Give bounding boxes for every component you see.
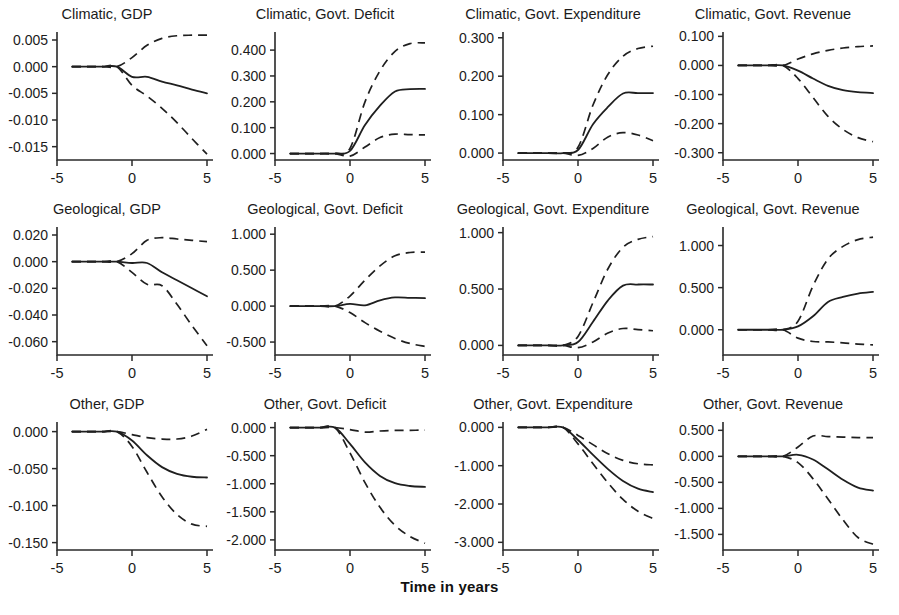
series-line-confidence-band [72, 238, 207, 263]
x-tick-label: 0 [794, 365, 802, 381]
y-tick-label: 0.000 [459, 145, 494, 161]
x-tick-label: 5 [869, 170, 877, 186]
y-tick-label: -2.000 [454, 496, 494, 512]
plot-area: 1.0000.5000.000-505 [441, 201, 665, 389]
x-tick-label: 5 [203, 170, 211, 186]
x-tick-label: 0 [128, 560, 136, 576]
x-tick-label: 0 [794, 170, 802, 186]
y-tick-label: -0.050 [8, 461, 48, 477]
x-tick-label: -5 [497, 170, 510, 186]
y-tick-label: 0.000 [13, 59, 48, 75]
plot-area: 0.000-0.500-1.000-1.500-2.000-505 [213, 396, 437, 584]
series-line-confidence-band [290, 306, 425, 347]
x-tick-label: -5 [717, 365, 730, 381]
series-line-confidence-band [738, 329, 873, 345]
plot-area: 0.0200.000-0.020-0.040-0.060-505 [0, 201, 219, 389]
y-tick-label: 0.500 [679, 280, 714, 296]
chart-panel: Other, Govt. Revenue0.5000.000-0.500-1.0… [661, 396, 885, 584]
x-tick-label: -5 [269, 560, 282, 576]
y-tick-label: -0.015 [8, 139, 48, 155]
x-tick-label: 0 [128, 170, 136, 186]
chart-panel: Other, Govt. Deficit0.000-0.500-1.000-1.… [213, 396, 437, 584]
series-line-confidence-band [72, 261, 207, 346]
series-line-median [290, 297, 425, 306]
y-tick-label: -1.500 [674, 526, 714, 542]
series-line-confidence-band [738, 435, 873, 457]
y-tick-label: 0.200 [459, 68, 494, 84]
chart-panel: Other, Govt. Expenditure0.000-1.000-2.00… [441, 396, 665, 584]
y-tick-label: 1.000 [459, 225, 494, 241]
plot-area: 1.0000.5000.000-505 [661, 201, 885, 389]
series-line-confidence-band [518, 427, 653, 465]
x-tick-label: -5 [51, 560, 64, 576]
x-tick-label: 0 [346, 170, 354, 186]
series-line-median [72, 262, 207, 297]
y-tick-label: 0.300 [459, 30, 494, 46]
y-tick-label: 0.500 [231, 262, 266, 278]
x-tick-label: -5 [717, 560, 730, 576]
x-tick-label: 0 [128, 365, 136, 381]
y-tick-label: 0.300 [231, 68, 266, 84]
x-tick-label: 5 [203, 560, 211, 576]
series-line-median [518, 92, 653, 153]
y-tick-label: -1.000 [226, 476, 266, 492]
impulse-response-figure-grid: Climatic, GDP0.0050.000-0.005-0.010-0.01… [0, 0, 899, 615]
y-tick-label: -1.500 [226, 504, 266, 520]
y-tick-label: 0.000 [459, 419, 494, 435]
figure-xaxis-caption: Time in years [0, 578, 899, 595]
series-line-confidence-band [518, 426, 653, 518]
chart-panel: Climatic, Govt. Expenditure0.3000.2000.1… [441, 6, 665, 194]
y-tick-label: 0.000 [679, 448, 714, 464]
x-tick-label: -5 [51, 365, 64, 381]
y-tick-label: 0.400 [231, 42, 266, 58]
series-line-confidence-band [738, 64, 873, 141]
x-tick-label: -5 [51, 170, 64, 186]
plot-area: 0.000-1.000-2.000-3.000-505 [441, 396, 665, 584]
y-tick-label: 0.005 [13, 32, 48, 48]
series-line-median [518, 284, 653, 346]
y-tick-label: -0.005 [8, 85, 48, 101]
y-tick-label: 0.000 [679, 322, 714, 338]
x-tick-label: 0 [346, 365, 354, 381]
series-line-median [518, 426, 653, 492]
y-tick-label: 0.000 [13, 254, 48, 270]
y-tick-label: -0.100 [674, 87, 714, 103]
y-tick-label: 1.000 [231, 226, 266, 242]
x-tick-label: 0 [574, 560, 582, 576]
plot-area: 0.3000.2000.1000.000-505 [441, 6, 665, 194]
x-tick-label: -5 [269, 170, 282, 186]
y-tick-label: -3.000 [454, 534, 494, 550]
y-tick-label: 0.500 [679, 422, 714, 438]
x-tick-label: 5 [869, 560, 877, 576]
y-tick-label: -0.200 [674, 116, 714, 132]
x-tick-label: 5 [649, 170, 657, 186]
chart-panel: Geological, GDP0.0200.000-0.020-0.040-0.… [0, 201, 219, 389]
series-line-confidence-band [72, 65, 207, 154]
y-tick-label: 0.000 [231, 420, 266, 436]
x-tick-label: -5 [269, 365, 282, 381]
y-tick-label: -0.150 [8, 535, 48, 551]
x-tick-label: 5 [421, 365, 429, 381]
x-tick-label: 0 [574, 365, 582, 381]
series-line-confidence-band [290, 252, 425, 307]
y-tick-label: 0.000 [679, 57, 714, 73]
chart-panel: Other, GDP0.000-0.050-0.100-0.150-505 [0, 396, 219, 584]
y-tick-label: 1.000 [679, 238, 714, 254]
y-tick-label: -0.010 [8, 112, 48, 128]
x-tick-label: 5 [421, 560, 429, 576]
series-line-confidence-band [738, 237, 873, 330]
plot-area: 0.1000.000-0.100-0.200-0.300-505 [661, 6, 885, 194]
y-tick-label: -0.300 [674, 145, 714, 161]
series-line-confidence-band [738, 46, 873, 66]
series-line-confidence-band [518, 328, 653, 347]
y-tick-label: -0.500 [226, 448, 266, 464]
plot-area: 0.000-0.050-0.100-0.150-505 [0, 396, 219, 584]
x-tick-label: -5 [497, 560, 510, 576]
y-tick-label: 0.000 [231, 298, 266, 314]
x-tick-label: 5 [649, 560, 657, 576]
y-tick-label: -0.500 [674, 474, 714, 490]
series-line-median [72, 431, 207, 478]
y-tick-label: 0.000 [231, 146, 266, 162]
plot-area: 0.5000.000-0.500-1.000-1.500-505 [661, 396, 885, 584]
y-tick-label: -2.000 [226, 532, 266, 548]
